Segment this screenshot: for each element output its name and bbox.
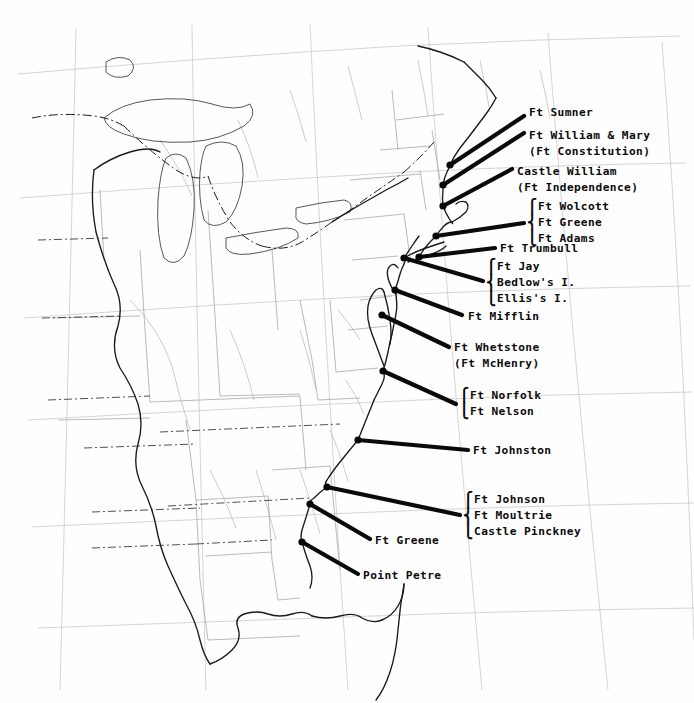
fort-label-line: Ft Greene (375, 533, 439, 549)
fort-location-marker[interactable] (306, 500, 313, 507)
leader-line (436, 223, 524, 236)
fort-label-line: Ellis's I. (497, 291, 576, 307)
label-brace-segment: ⎩ (464, 523, 472, 539)
fort-label-line: Ft Greene (538, 215, 609, 231)
fort-label-ft-william-and-mary: Ft William & Mary(Ft Constitution) (529, 128, 650, 160)
fort-label-ft-trumbull: Ft Trumbull (500, 241, 579, 257)
label-brace-segment: ⎩ (460, 403, 468, 419)
label-brace-segment: ⎧ (528, 198, 536, 214)
label-brace-segment: ⎧ (464, 491, 472, 507)
fort-label-line: Ft Mifflin (468, 309, 539, 325)
fort-label-ft-sumner: Ft Sumner (529, 105, 593, 121)
leader-line (404, 258, 483, 281)
label-brace-segment: ⎨ (464, 507, 472, 523)
fort-label-ft-mifflin: Ft Mifflin (468, 309, 539, 325)
location-markers-layer (298, 161, 453, 545)
leader-line (327, 487, 460, 515)
fort-label-line: Ft Johnston (473, 443, 552, 459)
fort-location-marker[interactable] (446, 161, 453, 168)
fort-label-castle-william: Castle William(Ft Independence) (517, 164, 638, 196)
fort-label-line: Ft William & Mary (529, 128, 650, 144)
fort-location-marker[interactable] (415, 253, 422, 260)
fort-label-line: (Ft Constitution) (529, 144, 650, 160)
fort-label-new-york-harbor-group: Ft JayBedlow's I.Ellis's I. (497, 259, 576, 307)
leader-line (419, 248, 495, 257)
fort-label-norfolk-group: Ft NorfolkFt Nelson (470, 388, 541, 420)
fort-label-charleston-group: Ft JohnsonFt MoultrieCastle Pinckney (474, 492, 581, 540)
label-brace-segment: ⎨ (528, 214, 536, 230)
fort-label-line: Ft Sumner (529, 105, 593, 121)
fort-location-marker[interactable] (379, 367, 386, 374)
fort-label-line: Castle Pinckney (474, 524, 581, 540)
fort-label-line: Ft Norfolk (470, 388, 541, 404)
fort-label-line: Ft Moultrie (474, 508, 581, 524)
fort-location-marker[interactable] (298, 538, 305, 545)
fort-location-marker[interactable] (378, 311, 385, 318)
fort-label-line: Bedlow's I. (497, 275, 576, 291)
fort-label-line: Point Petre (363, 568, 442, 584)
coastline-layer (92, 46, 496, 700)
leader-line (358, 440, 468, 450)
fort-label-ft-whetstone: Ft Whetstone(Ft McHenry) (454, 340, 540, 372)
fort-location-marker[interactable] (439, 202, 446, 209)
label-brace-segment: ⎨ (487, 274, 495, 290)
label-brace-segment: ⎩ (487, 290, 495, 306)
fort-label-ft-greene: Ft Greene (375, 533, 439, 549)
leader-line (310, 504, 370, 539)
fort-label-line: Castle William (517, 164, 638, 180)
fort-label-line: Ft Johnson (474, 492, 581, 508)
fort-label-line: Ft Wolcott (538, 199, 609, 215)
fort-label-line: (Ft McHenry) (454, 356, 540, 372)
fort-label-line: Ft Nelson (470, 404, 541, 420)
leader-line (383, 371, 456, 404)
fort-location-marker[interactable] (400, 254, 407, 261)
fort-label-line: Ft Jay (497, 259, 576, 275)
great-lakes-layer (104, 57, 351, 262)
label-brace-segment: ⎧ (487, 258, 495, 274)
fort-label-line: Ft Whetstone (454, 340, 540, 356)
fort-location-marker[interactable] (391, 286, 398, 293)
fort-location-marker[interactable] (323, 483, 330, 490)
fort-label-point-petre: Point Petre (363, 568, 442, 584)
fort-label-newport-group: Ft WolcottFt GreeneFt Adams (538, 199, 609, 247)
fort-location-marker[interactable] (354, 436, 361, 443)
fort-label-line: (Ft Independence) (517, 180, 638, 196)
fort-location-marker[interactable] (432, 232, 439, 239)
territory-border-layer (38, 238, 340, 548)
label-brace-segment: ⎧ (460, 387, 468, 403)
fort-label-line: Ft Trumbull (500, 241, 579, 257)
historical-map-figure: Ft SumnerFt William & Mary(Ft Constituti… (0, 0, 694, 703)
leader-line (443, 169, 512, 206)
fort-location-marker[interactable] (439, 181, 446, 188)
fort-label-ft-johnston: Ft Johnston (473, 443, 552, 459)
